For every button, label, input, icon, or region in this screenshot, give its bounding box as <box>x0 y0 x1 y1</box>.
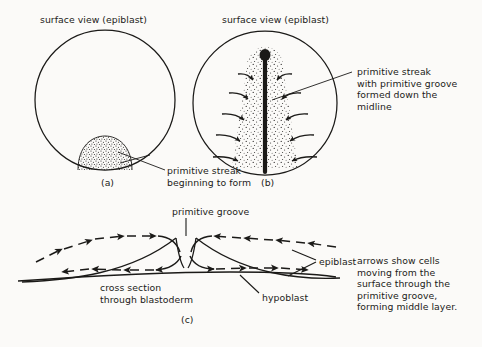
panel-c-epiblast-leader-2 <box>292 250 316 260</box>
panel-c-arrow-surface-l3 <box>95 236 124 239</box>
panel-c-egress-right <box>190 256 214 269</box>
panel-c-arrow-surface-r2 <box>276 240 305 243</box>
panel-c-arrow-surface-r1 <box>308 243 336 247</box>
panel-a-artwork <box>35 30 175 170</box>
panel-c-hypoblast-line <box>18 272 336 281</box>
diagram-artwork <box>0 0 482 347</box>
panel-c-surface-arrows-right <box>214 236 336 247</box>
panel-c-arrow-mid-r1 <box>216 268 246 269</box>
figure-primitive-streak: surface view (epiblast) surface view (ep… <box>0 0 482 347</box>
panel-c-arrow-surface-r4 <box>214 236 241 238</box>
panel-c-surface-arrows-left <box>36 236 156 262</box>
panel-a-early-streak-dome <box>78 136 132 170</box>
panel-c-arrow-surface-r3 <box>244 238 273 240</box>
panel-c-arrow-mid-l2 <box>92 269 121 270</box>
panel-c-hypoblast-leader <box>240 275 259 293</box>
panel-c-arrow-surface-l2 <box>64 240 92 249</box>
panel-b-hensens-node <box>260 49 271 61</box>
panel-c-groove-wall-left <box>176 238 184 268</box>
panel-c-arrow-mid-l3 <box>62 269 89 272</box>
panel-c-arrow-surface-l1 <box>36 249 62 262</box>
panel-c-artwork <box>18 218 340 293</box>
panel-b-artwork <box>193 31 352 175</box>
panel-c-egress-left <box>156 256 181 270</box>
